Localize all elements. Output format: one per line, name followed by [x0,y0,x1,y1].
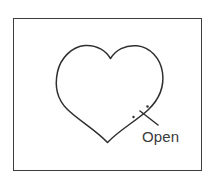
diagram-canvas [0,0,212,179]
x-mark-stroke [140,111,158,125]
annotation-dot-lower [132,116,134,118]
open-label: Open [142,128,179,145]
annotation-dot-upper [146,105,148,107]
figure-root: Open [0,0,212,179]
